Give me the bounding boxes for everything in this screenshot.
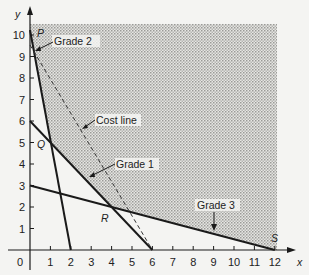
y-tick-labels: 1 2 3 4 5 6 7 8 9 10 <box>13 29 25 235</box>
cost-line-label: Cost line <box>96 114 137 126</box>
svg-text:10: 10 <box>13 29 25 41</box>
svg-text:7: 7 <box>170 256 176 268</box>
svg-text:10: 10 <box>228 256 240 268</box>
grade-3-label: Grade 3 <box>197 199 235 211</box>
feasible-region <box>30 24 277 250</box>
x-tick-labels: 0 1 2 3 4 5 6 7 8 9 10 11 12 <box>17 256 281 268</box>
grade-1-label: Grade 1 <box>116 158 154 170</box>
origin-label: 0 <box>17 256 23 268</box>
svg-text:4: 4 <box>109 256 115 268</box>
svg-text:8: 8 <box>190 256 196 268</box>
svg-text:8: 8 <box>19 72 25 84</box>
svg-text:11: 11 <box>249 256 260 268</box>
svg-text:4: 4 <box>19 158 25 170</box>
point-s-label: S <box>271 232 278 244</box>
y-axis-label: y <box>14 8 21 20</box>
svg-text:5: 5 <box>129 256 135 268</box>
svg-text:1: 1 <box>47 256 53 268</box>
point-p-label: P <box>37 27 44 39</box>
lp-feasible-region-chart: 0 1 2 3 4 5 6 7 8 9 10 11 12 x 1 2 3 4 5… <box>0 0 309 275</box>
svg-text:7: 7 <box>19 94 25 106</box>
point-q-label: Q <box>37 138 45 150</box>
svg-text:6: 6 <box>19 115 25 127</box>
x-axis-label: x <box>296 256 303 268</box>
point-r-label: R <box>101 212 109 224</box>
svg-text:9: 9 <box>211 256 217 268</box>
svg-text:9: 9 <box>19 51 25 63</box>
svg-text:5: 5 <box>19 137 25 149</box>
grade-2-label: Grade 2 <box>54 35 92 47</box>
svg-text:2: 2 <box>68 256 74 268</box>
svg-text:3: 3 <box>88 256 94 268</box>
svg-text:6: 6 <box>149 256 155 268</box>
svg-text:1: 1 <box>19 223 25 235</box>
svg-text:2: 2 <box>19 201 25 213</box>
svg-text:3: 3 <box>19 180 25 192</box>
svg-text:12: 12 <box>269 256 281 268</box>
